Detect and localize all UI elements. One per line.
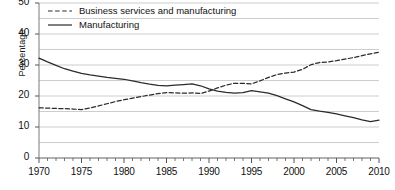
x-tick-label: 2010 (359, 166, 395, 177)
series-line (39, 52, 379, 109)
x-tick-label: 1970 (19, 166, 59, 177)
x-tick-label: 2000 (274, 166, 314, 177)
y-tick-label: 50 (5, 0, 29, 7)
legend-key-dashed (47, 6, 73, 16)
x-tick-marks (39, 158, 379, 163)
legend-item-business-services: Business services and manufacturing (47, 4, 236, 17)
x-tick-label: 1975 (62, 166, 102, 177)
series-line (39, 58, 379, 122)
legend-key-solid (47, 20, 73, 30)
x-tick-label: 2005 (317, 166, 357, 177)
x-tick-label: 1980 (104, 166, 144, 177)
x-tick-label: 1995 (232, 166, 272, 177)
y-tick-label: 30 (5, 58, 29, 69)
legend-item-manufacturing: Manufacturing (47, 18, 236, 31)
legend-label-business-services: Business services and manufacturing (79, 5, 236, 16)
y-tick-label: 40 (5, 27, 29, 38)
y-tick-label: 0 (5, 151, 29, 162)
y-tick-marks (35, 3, 39, 158)
y-tick-label: 10 (5, 120, 29, 131)
legend: Business services and manufacturing Manu… (47, 4, 236, 32)
y-tick-label: 20 (5, 89, 29, 100)
legend-label-manufacturing: Manufacturing (79, 19, 139, 30)
y-axis-title: Percentage (17, 10, 27, 96)
x-tick-label: 1985 (147, 166, 187, 177)
x-tick-label: 1990 (189, 166, 229, 177)
